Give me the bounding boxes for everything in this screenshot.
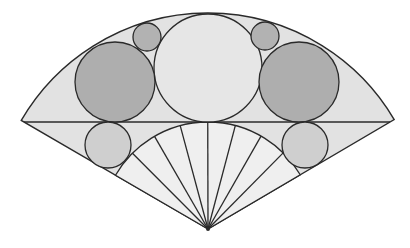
right-lower-circle (282, 122, 328, 168)
fan-rays (132, 122, 283, 229)
right-small-circle (251, 22, 279, 50)
left-large-circle (75, 42, 155, 122)
sector-diagram (0, 0, 410, 248)
left-lower-circle (85, 122, 131, 168)
apex-point (206, 227, 210, 231)
right-large-circle (259, 42, 339, 122)
center-large-circle (154, 14, 262, 122)
left-small-circle (133, 23, 161, 51)
